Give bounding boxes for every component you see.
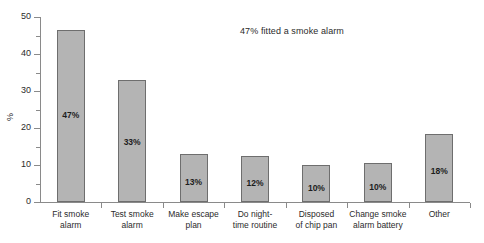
x-axis-category-label: Other [409, 209, 470, 220]
y-tick-label: 0 [26, 196, 31, 206]
bar-value-label: 18% [426, 166, 452, 176]
bar-value-label: 33% [119, 137, 145, 147]
bar-value-label: 13% [181, 177, 207, 187]
x-axis-category-line: Test smoke [101, 209, 162, 220]
x-axis-category-label: Make escapeplan [163, 209, 224, 230]
x-axis-category-line: plan [163, 220, 224, 231]
x-axis-category-line: Disposed [286, 209, 347, 220]
x-axis-category-line: Make escape [163, 209, 224, 220]
x-axis-category-label: Change smokealarm battery [347, 209, 408, 230]
x-axis-category-line: of chip pan [286, 220, 347, 231]
bar-value-label: 47% [58, 110, 84, 120]
x-axis-category-line: alarm [40, 220, 101, 231]
x-tick [286, 203, 287, 208]
x-axis-category-label: Do night-time routine [224, 209, 285, 230]
bar: 13% [180, 154, 208, 202]
bar-chart: 47% fitted a smoke alarm % 01020304050 4… [0, 0, 484, 243]
x-axis-category-line: Fit smoke [40, 209, 101, 220]
y-tick-label: 20 [21, 122, 31, 132]
y-tick-major: 0 [34, 202, 40, 203]
x-tick [470, 203, 471, 208]
x-axis-line [40, 202, 470, 203]
y-tick-label: 40 [21, 48, 31, 58]
y-tick-label: 10 [21, 159, 31, 169]
x-tick [163, 203, 164, 208]
x-axis-category-line: Do night- [224, 209, 285, 220]
x-tick [347, 203, 348, 208]
x-axis-category-line: Other [409, 209, 470, 220]
bar-value-label: 12% [242, 178, 268, 188]
bar-value-label: 10% [365, 182, 391, 192]
bar: 18% [425, 134, 453, 202]
x-axis-category-line: time routine [224, 220, 285, 231]
x-tick [101, 203, 102, 208]
x-tick [409, 203, 410, 208]
bar: 10% [364, 163, 392, 202]
bar-value-label: 10% [303, 183, 329, 193]
x-axis-category-line: alarm [101, 220, 162, 231]
bar: 47% [57, 30, 85, 202]
bar: 12% [241, 156, 269, 202]
plot-area: 47%33%13%12%10%10%18% [40, 17, 470, 202]
x-tick [224, 203, 225, 208]
x-axis-category-label: Disposedof chip pan [286, 209, 347, 230]
x-axis-category-line: alarm battery [347, 220, 408, 231]
x-axis-category-label: Fit smokealarm [40, 209, 101, 230]
x-axis-category-label: Test smokealarm [101, 209, 162, 230]
y-tick-label: 50 [21, 11, 31, 21]
y-axis-title: % [5, 113, 15, 121]
x-axis-category-line: Change smoke [347, 209, 408, 220]
y-tick-label: 30 [21, 85, 31, 95]
bar: 10% [302, 165, 330, 202]
bar: 33% [118, 80, 146, 202]
